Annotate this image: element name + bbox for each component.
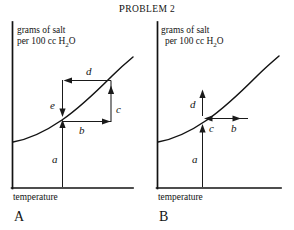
arrow-a: a bbox=[192, 124, 206, 187]
y-axis-label-line1: grams of salt bbox=[17, 25, 66, 35]
arrow-d-label: d bbox=[190, 98, 196, 110]
solubility-curve bbox=[13, 57, 133, 142]
arrow-c-label: c bbox=[209, 122, 214, 134]
arrow-a: a bbox=[52, 120, 66, 188]
arrow-d-head bbox=[64, 77, 73, 83]
arrow-d-label: d bbox=[86, 65, 92, 77]
arrow-b: b bbox=[63, 118, 111, 136]
arrow-b-label: b bbox=[231, 122, 237, 134]
arrow-a-label: a bbox=[192, 153, 198, 165]
solubility-curve bbox=[158, 56, 279, 142]
arrow-c-label: c bbox=[116, 103, 121, 115]
y-axis-label-line2: per 100 cc H2O bbox=[165, 36, 224, 49]
arrow-d: d bbox=[64, 65, 112, 84]
x-axis-label: temperature bbox=[13, 192, 58, 202]
panel-caption-a: A bbox=[14, 209, 25, 224]
y-axis-label-line2-pre: per 100 cc H bbox=[17, 36, 65, 46]
panel-caption-b: B bbox=[159, 209, 168, 224]
arrow-e: e bbox=[50, 80, 66, 117]
arrow-e-head bbox=[59, 109, 65, 118]
y-axis-label-line1: grams of salt bbox=[161, 25, 210, 35]
figure-page: PROBLEM 2 grams of salt per 100 cc H2O a bbox=[0, 0, 294, 230]
arrow-c: c bbox=[108, 81, 121, 123]
arrow-c: c bbox=[204, 115, 224, 134]
arrow-b-label: b bbox=[79, 124, 85, 136]
arrow-b-head bbox=[233, 115, 242, 121]
y-axis-label-line2-post: O bbox=[69, 36, 76, 46]
figure-canvas: grams of salt per 100 cc H2O a b bbox=[0, 0, 294, 230]
panel-b: grams of salt per 100 cc H2O a b c bbox=[157, 22, 281, 224]
y-axis-label-line2-pre: per 100 cc H bbox=[165, 36, 213, 46]
arrow-d-head bbox=[199, 90, 205, 99]
x-axis-label: temperature bbox=[158, 192, 203, 202]
y-axis-label-line2: per 100 cc H2O bbox=[17, 36, 76, 49]
arrow-d: d bbox=[190, 90, 206, 117]
arrow-a-label: a bbox=[52, 153, 58, 165]
arrow-e-label: e bbox=[50, 99, 55, 111]
panel-a: grams of salt per 100 cc H2O a b bbox=[12, 22, 133, 224]
y-axis-label-line2-post: O bbox=[217, 36, 224, 46]
